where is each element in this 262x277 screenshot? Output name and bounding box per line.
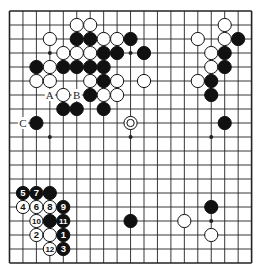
white-stone — [70, 18, 83, 31]
white-stone — [70, 46, 83, 59]
stone-disc — [178, 214, 191, 227]
white-stone: 2 — [30, 228, 43, 241]
black-stone — [84, 32, 97, 45]
stone-disc — [97, 88, 110, 101]
white-stone — [178, 214, 191, 227]
stone-disc — [70, 102, 83, 115]
black-stone: 1 — [57, 228, 70, 241]
white-stone — [30, 74, 43, 87]
stone-disc — [57, 60, 70, 73]
stone-disc — [137, 46, 150, 59]
move-number: 3 — [61, 243, 66, 254]
black-stone — [30, 60, 43, 73]
black-stone — [70, 102, 83, 115]
white-stone — [111, 74, 124, 87]
stone-disc — [84, 18, 97, 31]
black-stone — [57, 60, 70, 73]
stone-disc — [30, 74, 43, 87]
white-stone: 12 — [43, 242, 56, 255]
black-stone: 7 — [30, 186, 43, 199]
black-stone — [218, 116, 231, 129]
black-stone — [30, 116, 43, 129]
stone-disc — [97, 60, 110, 73]
star-point — [209, 135, 213, 139]
black-stone — [111, 46, 124, 59]
black-stone — [205, 74, 218, 87]
black-stone: 11 — [57, 214, 70, 227]
white-stone — [218, 32, 231, 45]
stone-disc — [218, 18, 231, 31]
stone-disc — [70, 60, 83, 73]
stone-disc — [111, 88, 124, 101]
stone-disc — [232, 32, 245, 45]
stone-disc — [111, 46, 124, 59]
stone-disc — [205, 200, 218, 213]
stone-disc — [84, 88, 97, 101]
point-label-b: B — [73, 89, 80, 101]
white-stone — [43, 32, 56, 45]
white-stone: 8 — [43, 200, 56, 213]
move-number: 1 — [61, 229, 67, 240]
white-stone: 10 — [30, 214, 43, 227]
white-stone — [205, 228, 218, 241]
stone-disc — [218, 46, 231, 59]
stone-disc — [43, 32, 56, 45]
white-stone — [84, 18, 97, 31]
stone-disc — [84, 46, 97, 59]
stone-disc — [84, 74, 97, 87]
stone-disc — [97, 32, 110, 45]
black-stone — [97, 46, 110, 59]
white-stone — [57, 88, 70, 101]
black-stone: 5 — [16, 186, 29, 199]
star-point — [209, 219, 213, 223]
point-label-a: A — [46, 89, 54, 101]
black-stone — [137, 46, 150, 59]
stone-disc — [57, 88, 70, 101]
stone-disc — [84, 32, 97, 45]
stone-disc — [205, 74, 218, 87]
stone-disc — [84, 60, 97, 73]
stone-disc — [43, 228, 56, 241]
move-number: 10 — [32, 217, 41, 226]
white-stone — [191, 32, 204, 45]
black-stone — [70, 60, 83, 73]
stone-disc — [43, 214, 56, 227]
black-stone — [97, 60, 110, 73]
black-stone — [218, 60, 231, 73]
white-stone — [84, 46, 97, 59]
move-number: 5 — [20, 187, 26, 198]
black-stone — [97, 74, 110, 87]
stone-disc — [97, 46, 110, 59]
stone-disc — [191, 74, 204, 87]
stone-disc — [97, 74, 110, 87]
white-stone — [137, 74, 150, 87]
black-stone — [84, 60, 97, 73]
stone-disc — [205, 46, 218, 59]
black-stone — [124, 214, 137, 227]
stone-disc — [30, 116, 43, 129]
black-stone: 3 — [57, 242, 70, 255]
star-point — [48, 51, 52, 55]
stone-disc — [111, 32, 124, 45]
stone-disc — [57, 102, 70, 115]
move-number: 9 — [61, 201, 66, 212]
star-point — [129, 135, 133, 139]
stone-disc — [218, 116, 231, 129]
white-stone — [218, 18, 231, 31]
black-stone — [124, 32, 137, 45]
white-stone — [205, 46, 218, 59]
point-label-c: C — [19, 117, 26, 129]
white-stone — [57, 46, 70, 59]
stone-disc — [70, 46, 83, 59]
go-board: ABC 574689101121123 — [0, 0, 262, 277]
stone-disc — [205, 88, 218, 101]
black-stone — [205, 200, 218, 213]
stone-disc — [205, 60, 218, 73]
white-stone: 6 — [30, 200, 43, 213]
white-stone: 4 — [16, 200, 29, 213]
star-point — [129, 51, 133, 55]
white-stone — [84, 74, 97, 87]
stone-disc — [205, 228, 218, 241]
stone-disc — [218, 60, 231, 73]
stone-disc — [111, 74, 124, 87]
